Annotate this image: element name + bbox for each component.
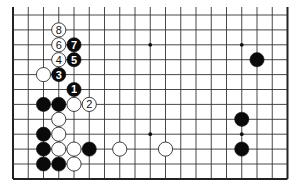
- stone-disc: [235, 112, 249, 126]
- black-stone-7: 7: [67, 38, 81, 52]
- star-point: [148, 43, 152, 47]
- black-stone: [235, 142, 249, 156]
- white-stone-2: 2: [82, 97, 96, 111]
- white-stone-8: 8: [52, 23, 66, 37]
- white-stone: [113, 142, 127, 156]
- white-stone: [52, 127, 66, 141]
- white-stone: [67, 157, 81, 171]
- move-number: 3: [56, 69, 62, 81]
- stone-disc: [113, 142, 127, 156]
- move-number: 8: [56, 24, 62, 36]
- stone-disc: [52, 112, 66, 126]
- black-stone: [250, 53, 264, 67]
- star-point: [148, 132, 152, 136]
- stone-disc: [36, 127, 50, 141]
- black-stone-5: 5: [67, 53, 81, 67]
- black-stone: [52, 157, 66, 171]
- stone-disc: [36, 97, 50, 111]
- stone-disc: [67, 157, 81, 171]
- white-stone: [67, 142, 81, 156]
- white-stone: [52, 112, 66, 126]
- stone-disc: [67, 142, 81, 156]
- stone-disc: [67, 97, 81, 111]
- stone-disc: [36, 142, 50, 156]
- black-stone-1: 1: [67, 82, 81, 96]
- white-stone-4: 4: [52, 53, 66, 67]
- white-stone: [52, 142, 66, 156]
- white-stone: [36, 68, 50, 82]
- stone-disc: [82, 142, 96, 156]
- move-number: 7: [71, 39, 77, 51]
- move-number: 2: [86, 98, 92, 110]
- stone-disc: [52, 142, 66, 156]
- star-point: [240, 132, 244, 136]
- move-number: 4: [56, 54, 62, 66]
- black-stone: [235, 112, 249, 126]
- stone-disc: [52, 127, 66, 141]
- stone-disc: [158, 142, 172, 156]
- black-stone-3: 3: [52, 68, 66, 82]
- black-stone: [52, 97, 66, 111]
- stone-disc: [36, 68, 50, 82]
- black-stone: [36, 127, 50, 141]
- black-stone: [36, 157, 50, 171]
- move-number: 6: [56, 39, 62, 51]
- black-stone: [36, 97, 50, 111]
- stone-disc: [36, 157, 50, 171]
- stone-disc: [52, 157, 66, 171]
- white-stone: [67, 97, 81, 111]
- black-stone: [82, 142, 96, 156]
- black-stone: [36, 142, 50, 156]
- stone-disc: [52, 97, 66, 111]
- move-number: 1: [71, 83, 77, 95]
- go-board: 86745312: [0, 0, 295, 190]
- stone-disc: [235, 142, 249, 156]
- white-stone: [158, 142, 172, 156]
- move-number: 5: [71, 54, 77, 66]
- star-point: [240, 43, 244, 47]
- stone-disc: [250, 53, 264, 67]
- white-stone-6: 6: [52, 38, 66, 52]
